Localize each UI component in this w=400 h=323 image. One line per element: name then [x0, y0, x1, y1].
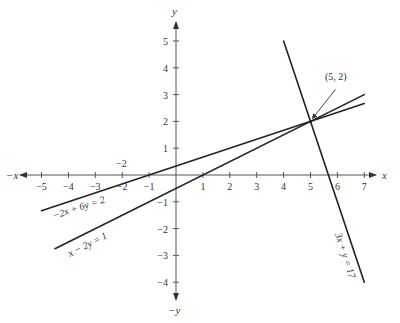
y-tick-label: −2 [157, 224, 168, 235]
x-tick-label: 2 [227, 181, 232, 192]
y-tick-label: 3 [163, 90, 168, 101]
x-tick-label: 3 [254, 181, 259, 192]
line-c [284, 41, 365, 282]
x-tick-label: 5 [308, 181, 313, 192]
y-tick-label: 5 [163, 36, 168, 47]
x-tick-label: −3 [90, 181, 101, 192]
y-axis-label: y [171, 5, 177, 17]
labels: x −x y −y −2 (5, 2) −2x + 6y = 2 x − 2y … [6, 5, 387, 316]
y-tick-label: 4 [163, 63, 168, 74]
axes [20, 22, 376, 300]
x-tick-label: 6 [335, 181, 340, 192]
line-b [55, 95, 364, 249]
coordinate-plane: −5−4−3−2−11234567−4−3−2−112345 x −x y −y… [0, 0, 400, 323]
x-tick-label: −1 [144, 181, 155, 192]
x-axis-label: x [381, 169, 387, 181]
extra-neg2-label: −2 [116, 158, 127, 169]
y-tick-label: −4 [157, 277, 168, 288]
x-tick-label: 1 [200, 181, 205, 192]
y-tick-label: −3 [157, 250, 168, 261]
x-tick-label: −5 [36, 181, 47, 192]
neg-y-axis-label: −y [168, 304, 180, 316]
y-tick-label: 1 [163, 143, 168, 154]
neg-x-axis-label: −x [6, 169, 18, 181]
x-tick-label: 4 [281, 181, 286, 192]
x-tick-label: −4 [63, 181, 74, 192]
line-b-label: x − 2y = 1 [65, 230, 109, 259]
intersection-point [309, 120, 312, 123]
y-tick-label: 2 [163, 116, 168, 127]
y-tick-label: −1 [157, 197, 168, 208]
x-tick-label: 7 [362, 181, 367, 192]
intersection-label: (5, 2) [325, 71, 347, 83]
